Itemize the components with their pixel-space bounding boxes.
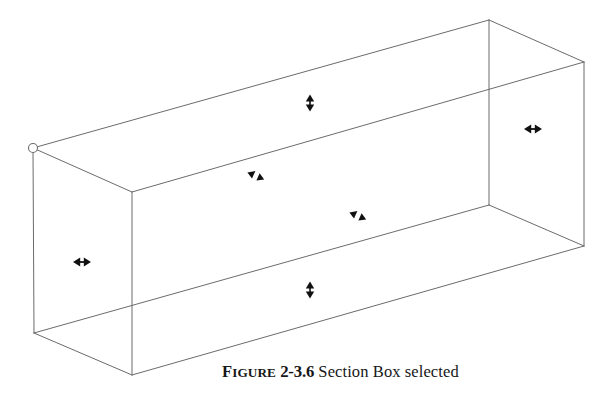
figure-container: FIGURE 2-3.6 Section Box selected	[0, 0, 606, 401]
edge-bottom-right-to-bottom-front	[132, 246, 584, 375]
edge-top-front-to-top-left	[33, 148, 132, 192]
figure-caption: FIGURE 2-3.6 Section Box selected	[222, 362, 606, 382]
figure-caption-text: Section Box selected	[318, 362, 458, 381]
section-box-wireframe[interactable]	[0, 0, 606, 401]
right-face-handle-icon[interactable]	[524, 125, 542, 134]
origin-handle-icon[interactable]	[29, 144, 38, 153]
edge-bottom-left-to-bottom-back	[34, 205, 489, 333]
front-face-handle-icon[interactable]	[349, 211, 366, 221]
box-edges	[33, 20, 584, 375]
left-face-handle-icon[interactable]	[73, 258, 91, 267]
edge-top-back-to-top-right	[489, 20, 584, 62]
figure-caption-label: FIGURE	[222, 362, 276, 381]
edge-vertical-left	[33, 148, 34, 333]
top-face-handle-icon[interactable]	[306, 95, 314, 112]
edge-bottom-back-to-bottom-right	[489, 205, 584, 246]
edge-top-right-to-top-front	[132, 62, 584, 192]
drag-handles[interactable]	[73, 95, 542, 299]
bottom-face-handle-icon[interactable]	[306, 282, 314, 299]
back-face-handle-icon[interactable]	[247, 171, 264, 181]
edge-top-left-to-top-back	[33, 20, 489, 148]
edge-bottom-front-to-bottom-left	[34, 333, 132, 375]
figure-caption-number: 2-3.6	[280, 362, 314, 381]
